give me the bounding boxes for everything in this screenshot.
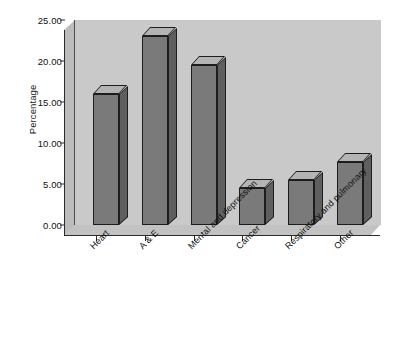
x-axis-category-labels: HeartA & EMental and depressionCancerRes… [0,0,408,355]
x-category-label: Respiratory and pulmonary [283,166,368,251]
x-category-label: Other [332,228,355,251]
x-category-label: A & E [137,228,160,251]
bar-chart-figure: Percentage 0.005.0010.0015.0020.0025.00 … [0,0,408,355]
x-category-label: Heart [88,228,111,251]
x-category-label: Cancer [234,223,262,251]
